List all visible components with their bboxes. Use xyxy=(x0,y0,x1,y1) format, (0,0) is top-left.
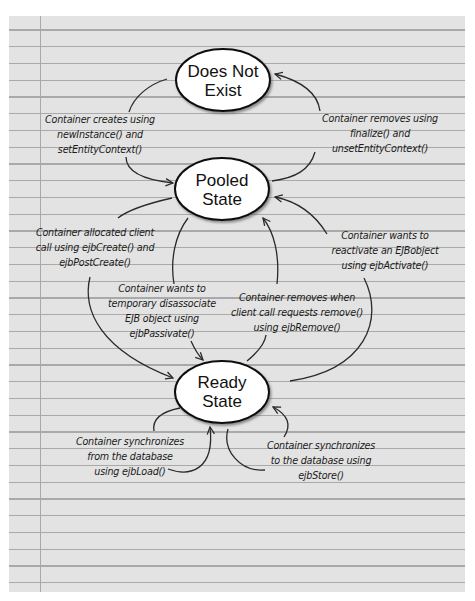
note-line: ejbPassivate() xyxy=(100,326,224,341)
arrow-finalize-lower xyxy=(272,152,315,181)
note-line: unsetEntityContext() xyxy=(305,141,455,156)
note-line: Container synchronizes xyxy=(65,434,195,449)
note-line: EJB object using xyxy=(100,311,224,326)
note-remove: Container removes when client call reque… xyxy=(222,290,372,335)
arrow-create-lower xyxy=(126,157,173,183)
note-line: finalize() and xyxy=(305,126,455,141)
note-line: Container removes using xyxy=(305,111,455,126)
note-finalize: Container removes using finalize() and u… xyxy=(305,111,455,156)
note-store: Container synchronizes to the database u… xyxy=(256,438,386,483)
state-label-line: Ready xyxy=(175,373,269,392)
state-pooled: Pooled State xyxy=(175,171,269,209)
note-allocate: Container allocated client call using ej… xyxy=(20,225,170,270)
note-load: Container synchronizes from the database… xyxy=(65,434,195,479)
arrow-store-lower xyxy=(273,407,288,437)
note-passivate: Container wants to temporary disassociat… xyxy=(100,281,224,341)
note-line: Container allocated client xyxy=(20,225,170,240)
state-label-line: Exist xyxy=(176,81,270,100)
note-line: Container removes when xyxy=(222,290,372,305)
state-label-line: Pooled xyxy=(175,171,269,190)
note-line: call using ejbCreate() and xyxy=(20,240,170,255)
note-line: ejbStore() xyxy=(256,468,386,483)
arrow-passivate-upper xyxy=(173,218,188,284)
note-line: using ejbLoad() xyxy=(65,464,195,479)
note-line: ejbPostCreate() xyxy=(20,255,170,270)
note-line: to the database using xyxy=(256,453,386,468)
note-line: newInstance() and xyxy=(25,127,175,142)
note-line: using ejbActivate() xyxy=(310,258,460,273)
note-line: Container creates using xyxy=(25,112,175,127)
note-create: Container creates using newInstance() an… xyxy=(25,112,175,157)
arrow-create xyxy=(129,79,167,112)
arrow-remove-upper xyxy=(263,218,278,284)
note-line: temporary disassociate xyxy=(100,296,224,311)
note-line: Container wants to xyxy=(100,281,224,296)
note-line: client call requests remove() xyxy=(222,305,372,320)
arrow-allocate-upper xyxy=(118,198,172,218)
state-label-line: Does Not xyxy=(176,62,270,81)
note-line: setEntityContext() xyxy=(25,142,175,157)
arrow-load xyxy=(154,408,180,431)
note-line: reactivate an EJBobject xyxy=(310,243,460,258)
arrow-passivate-lower xyxy=(191,341,203,360)
arrow-finalize-upper xyxy=(275,74,320,111)
note-line: Container synchronizes xyxy=(256,438,386,453)
note-line: using ejbRemove() xyxy=(222,320,372,335)
arrow-remove-lower xyxy=(247,335,266,361)
note-line: from the database xyxy=(65,449,195,464)
state-label-line: State xyxy=(175,392,269,411)
state-label-line: State xyxy=(175,190,269,209)
state-does-not-exist: Does Not Exist xyxy=(176,62,270,100)
note-line: Container wants to xyxy=(310,228,460,243)
state-ready: Ready State xyxy=(175,373,269,411)
note-activate: Container wants to reactivate an EJBobje… xyxy=(310,228,460,273)
